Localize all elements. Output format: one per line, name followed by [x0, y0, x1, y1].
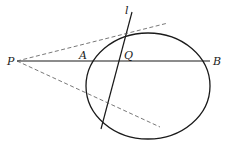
label-a: A	[78, 49, 87, 62]
tangent-line-upper	[17, 23, 168, 61]
diagram-canvas: P A Q B l	[0, 0, 228, 141]
ellipse-diagram: P A Q B l	[0, 0, 228, 141]
label-p: P	[6, 55, 15, 68]
label-q: Q	[124, 49, 133, 62]
label-b: B	[212, 55, 221, 68]
ellipse	[86, 33, 210, 139]
line-l	[101, 12, 132, 129]
label-l: l	[125, 4, 129, 17]
